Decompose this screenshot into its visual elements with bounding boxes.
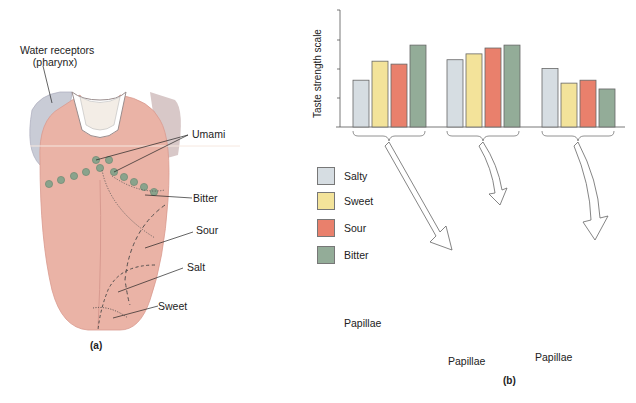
bar-salty-group-2 — [447, 60, 463, 127]
bar-sour-group-1 — [391, 64, 407, 127]
legend-label-bitter: Bitter — [344, 249, 369, 261]
callout-papillae-fungiform: Papillae — [535, 351, 572, 363]
bar-sour-group-2 — [485, 48, 501, 127]
legend-swatch-bitter — [317, 246, 335, 264]
bar-bitter-group-2 — [504, 45, 520, 127]
legend-swatch-sweet — [317, 192, 335, 210]
legend-label-salty: Salty — [344, 170, 367, 182]
bar-sweet-group-1 — [372, 61, 388, 127]
bar-salty-group-3 — [542, 69, 558, 128]
legend-label-sour: Sour — [344, 222, 366, 234]
bar-bitter-group-1 — [410, 45, 426, 127]
bar-sweet-group-3 — [561, 83, 577, 127]
legend-swatch-salty — [317, 167, 335, 185]
bar-sweet-group-2 — [466, 54, 482, 127]
bar-sour-group-3 — [580, 80, 596, 127]
panel-label-b: (b) — [503, 375, 516, 386]
bar-salty-group-1 — [353, 80, 369, 127]
legend-label-sweet: Sweet — [344, 195, 373, 207]
callout-papillae-circumvallate: Papillae — [344, 317, 381, 329]
bar-bitter-group-3 — [599, 89, 615, 127]
legend-swatch-sour — [317, 219, 335, 237]
callout-papillae-foliate: Papillae — [448, 355, 485, 367]
